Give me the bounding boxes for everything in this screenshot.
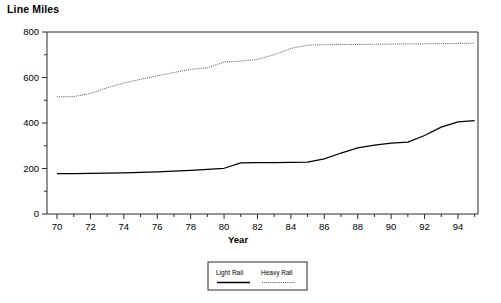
x-tick-label: 82 <box>252 221 263 232</box>
x-tick-label: 92 <box>419 221 430 232</box>
legend-frame <box>208 262 307 290</box>
y-tick-label: 200 <box>23 163 39 174</box>
chart-container: Line Miles Year 020040060080070727476788… <box>0 0 501 303</box>
legend-label-1: Heavy Rail <box>261 269 293 277</box>
x-tick-label: 70 <box>52 221 63 232</box>
y-tick-label: 400 <box>23 117 39 128</box>
y-tick-label: 800 <box>23 26 39 37</box>
plot-frame <box>47 32 478 214</box>
series-group <box>57 43 475 173</box>
x-tick-label: 88 <box>352 221 363 232</box>
axes-group: 020040060080070727476788082848688909294 <box>23 26 478 232</box>
x-tick-label: 76 <box>152 221 163 232</box>
y-tick-label: 0 <box>34 208 39 219</box>
series-line-light-rail <box>57 121 475 174</box>
series-line-heavy-rail <box>57 43 475 97</box>
x-tick-label: 94 <box>453 221 464 232</box>
x-tick-label: 90 <box>386 221 397 232</box>
x-tick-label: 84 <box>286 221 297 232</box>
line-chart-svg: 020040060080070727476788082848688909294 … <box>0 0 501 303</box>
x-tick-label: 78 <box>185 221 196 232</box>
x-tick-label: 86 <box>319 221 330 232</box>
x-tick-label: 74 <box>119 221 130 232</box>
legend-box[interactable]: Light RailHeavy Rail <box>208 262 307 290</box>
x-tick-label: 80 <box>219 221 230 232</box>
x-tick-label: 72 <box>85 221 96 232</box>
legend-label-0: Light Rail <box>216 269 244 277</box>
y-tick-label: 600 <box>23 72 39 83</box>
